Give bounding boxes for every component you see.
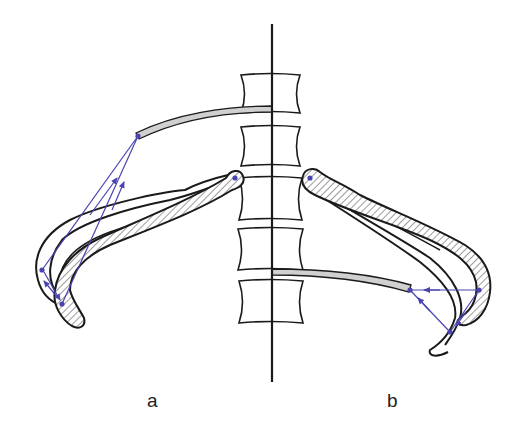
rib-b-hatched — [302, 169, 490, 325]
rib-assembly-b — [302, 169, 490, 356]
vector-b-arrow-1 — [418, 298, 430, 311]
vector-point-a-upper — [39, 267, 44, 272]
vector-a-arrow-2 — [112, 182, 124, 210]
vector-point-a-cartilage — [135, 133, 140, 138]
vector-point-b-lower — [447, 329, 452, 334]
panel-label-a: a — [147, 390, 158, 412]
vector-point-b-right — [476, 287, 481, 292]
vector-a-2 — [62, 136, 138, 304]
rib-a-hatched — [54, 171, 243, 328]
vertebra-2 — [241, 126, 300, 167]
panel-label-b: b — [387, 390, 398, 412]
vector-point-b-spine — [307, 175, 312, 180]
vector-point-a-lower — [59, 301, 64, 306]
vectors-a — [42, 136, 138, 304]
vector-point-a-spine — [232, 175, 237, 180]
vertebra-4 — [238, 228, 303, 271]
vertebra-3 — [239, 177, 302, 221]
rib-mechanics-diagram — [0, 0, 518, 429]
vector-point-b-cartilage — [407, 287, 412, 292]
rib-assembly-a — [36, 171, 244, 328]
